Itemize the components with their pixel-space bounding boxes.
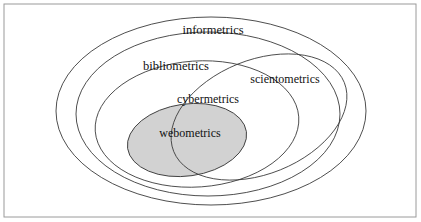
set-label-scientometrics: scientometrics	[250, 72, 320, 86]
set-label-informetrics: informetrics	[182, 23, 243, 37]
set-label-cybermetrics: cybermetrics	[177, 92, 239, 106]
set-label-webometrics: webometrics	[159, 126, 221, 140]
set-label-bibliometrics: bibliometrics	[143, 59, 209, 73]
venn-diagram-figure: informetrics bibliometrics scientometric…	[0, 0, 421, 222]
venn-diagram-canvas: informetrics bibliometrics scientometric…	[0, 0, 421, 222]
set-ellipse-webometrics	[123, 96, 252, 184]
